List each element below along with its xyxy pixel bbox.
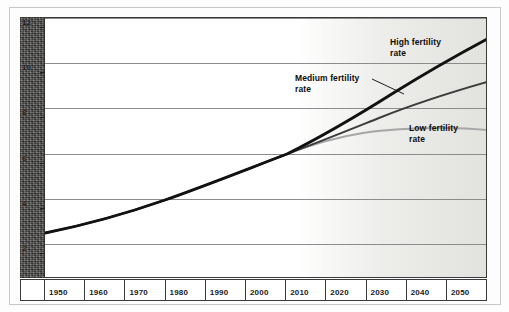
x-cell-2040: 2040 [407, 280, 447, 300]
y-tick-mark-8 [40, 117, 44, 118]
x-cell-1970: 1970 [125, 280, 165, 300]
x-cell-1960: 1960 [85, 280, 125, 300]
x-tick-label-1970: 1970 [129, 288, 148, 297]
x-cell-2020: 2020 [326, 280, 366, 300]
y-tick-label-2: 2 [22, 244, 26, 253]
x-tick-label-1980: 1980 [170, 288, 189, 297]
x-tick-label-2050: 2050 [451, 288, 470, 297]
x-tick-label-2010: 2010 [290, 288, 309, 297]
x-cell-2000: 2000 [246, 280, 286, 300]
series-label-medium-fertility: Medium fertility rate [295, 73, 359, 94]
y-tick-mark-2 [40, 253, 44, 254]
x-axis-strip: 1950 1960 1970 1980 1990 2000 2010 2020 … [20, 279, 487, 301]
x-tick-label-1960: 1960 [89, 288, 108, 297]
x-tick-label-2020: 2020 [330, 288, 349, 297]
series-label-low-fertility: Low fertility rate [409, 123, 458, 144]
population-projection-chart: 12 10 8 6 4 2 1950 1960 1970 1980 1990 2… [0, 0, 509, 312]
y-tick-label-10: 10 [22, 63, 31, 72]
series-label-high-fertility: High fertility rate [390, 37, 441, 58]
x-cell-1990: 1990 [206, 280, 246, 300]
x-tick-label-2040: 2040 [411, 288, 430, 297]
x-tick-label-1990: 1990 [210, 288, 229, 297]
y-tick-mark-6 [40, 163, 44, 164]
y-tick-mark-4 [40, 208, 44, 209]
x-axis-corner-pad [21, 280, 45, 300]
x-cell-1980: 1980 [166, 280, 206, 300]
x-tick-label-1950: 1950 [49, 288, 68, 297]
y-tick-label-8: 8 [22, 108, 26, 117]
y-tick-label-6: 6 [22, 154, 26, 163]
x-cell-2050: 2050 [447, 280, 486, 300]
y-tick-label-4: 4 [22, 199, 26, 208]
x-cell-2010: 2010 [286, 280, 326, 300]
curve-medium-fertility [45, 82, 487, 233]
x-tick-label-2030: 2030 [371, 288, 390, 297]
x-tick-label-2000: 2000 [250, 288, 269, 297]
y-tick-mark-12 [40, 27, 44, 28]
x-cell-1950: 1950 [45, 280, 85, 300]
y-tick-mark-10 [40, 72, 44, 73]
y-tick-label-12: 12 [22, 18, 31, 27]
x-cell-2030: 2030 [367, 280, 407, 300]
y-axis-band: 12 10 8 6 4 2 [20, 17, 45, 278]
